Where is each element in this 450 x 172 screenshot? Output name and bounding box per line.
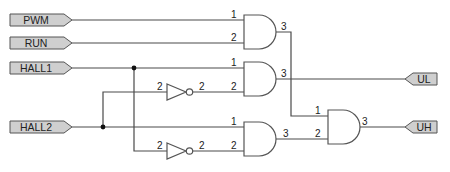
pin-g3-out: 3 (283, 128, 289, 139)
input-tag-run: RUN (10, 37, 72, 49)
output-tag-ul: UL (405, 73, 437, 85)
pin-inv2-in: 2 (157, 140, 163, 151)
pin-inv1-in: 2 (157, 81, 163, 92)
input-tag-hall2: HALL2 (10, 121, 72, 133)
pin-g3-in2: 2 (231, 140, 237, 151)
wire-hall2-branch (103, 92, 167, 127)
and-gate-3 (244, 122, 276, 156)
input-label-run: RUN (25, 37, 48, 49)
pin-g4-in1: 1 (315, 105, 321, 116)
pin-g2-in2: 2 (231, 81, 237, 92)
output-tag-uh: UH (405, 121, 437, 133)
pin-inv1-out: 2 (199, 81, 205, 92)
input-label-pwm: PWM (23, 14, 49, 26)
input-tag-hall1: HALL1 (10, 62, 72, 74)
output-label-uh: UH (416, 121, 431, 133)
inverter-1 (167, 84, 193, 100)
output-label-ul: UL (417, 73, 431, 85)
pin-g1-out: 3 (281, 21, 287, 32)
pin-g2-in1: 1 (231, 57, 237, 68)
junction-hall1 (132, 66, 137, 71)
input-label-hall1: HALL1 (20, 62, 52, 74)
schematic-svg: PWM RUN HALL1 HALL2 UL UH 1 2 3 1 2 3 1 … (0, 0, 450, 172)
input-label-hall2: HALL2 (20, 121, 52, 133)
pin-g1-in1: 1 (231, 9, 237, 20)
pin-g4-in2: 2 (315, 128, 321, 139)
pin-inv2-out: 2 (199, 140, 205, 151)
junction-hall2 (101, 125, 106, 130)
inverter-2 (167, 143, 193, 159)
pin-g1-in2: 2 (231, 32, 237, 43)
pin-g4-out: 3 (362, 116, 368, 127)
and-gate-2 (244, 62, 276, 96)
and-gate-4 (328, 110, 360, 144)
pin-g2-out: 3 (281, 68, 287, 79)
input-tag-pwm: PWM (10, 14, 72, 26)
pin-g3-in1: 1 (231, 116, 237, 127)
logic-schematic: PWM RUN HALL1 HALL2 UL UH 1 2 3 1 2 3 1 … (0, 0, 450, 172)
and-gate-1 (244, 15, 276, 49)
